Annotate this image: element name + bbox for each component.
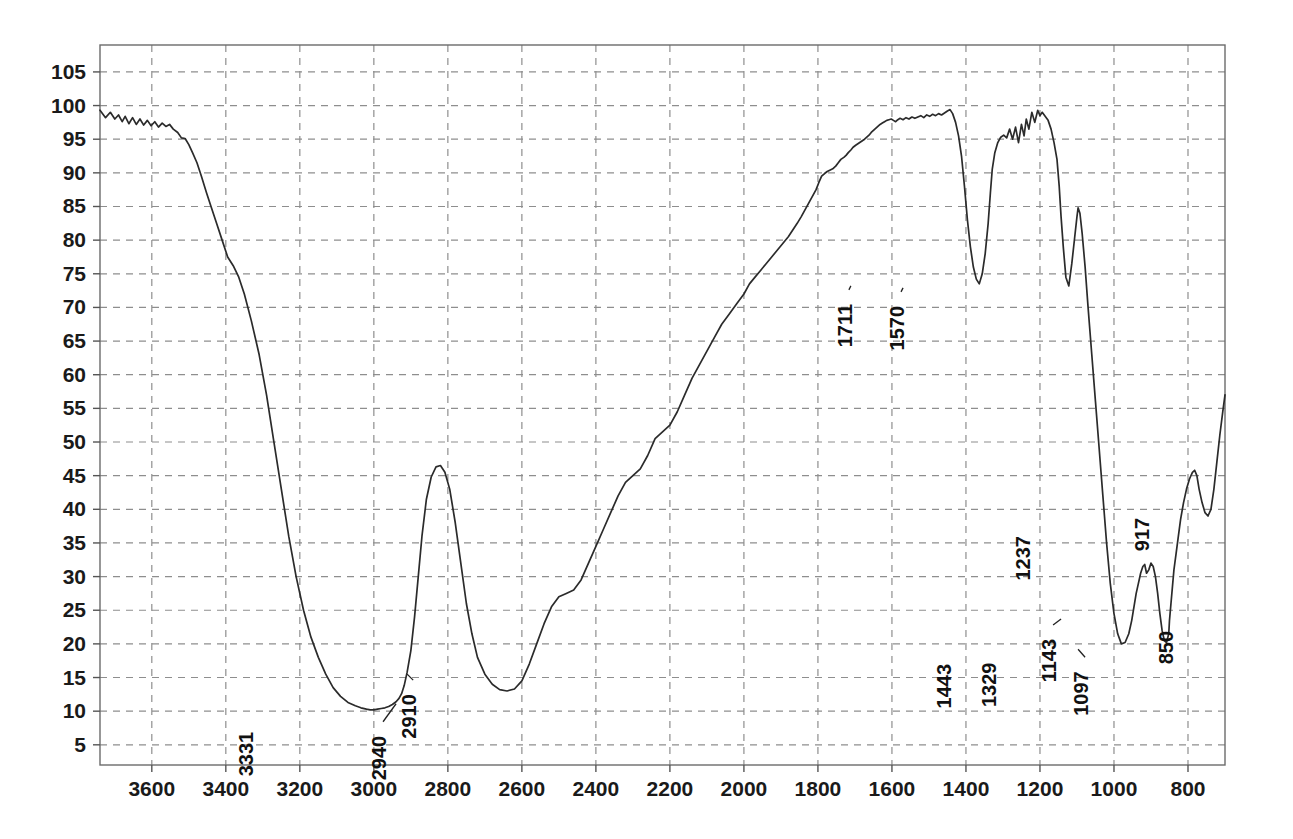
peak-label-1097: 1097	[1070, 671, 1092, 716]
y-tick-label: 55	[63, 396, 87, 419]
x-tick-label: 3400	[202, 777, 249, 800]
y-tick-label: 15	[63, 666, 87, 689]
y-tick-label: 40	[63, 497, 86, 520]
x-tick-label: 800	[1170, 777, 1205, 800]
peak-label-850: 850	[1155, 631, 1177, 664]
figure-background	[0, 0, 1293, 839]
x-tick-label: 2800	[425, 777, 472, 800]
peak-label-1711: 1711	[834, 304, 856, 347]
x-tick-label: 1200	[1017, 777, 1064, 800]
y-tick-label: 5	[74, 733, 86, 756]
y-tick-label: 65	[63, 329, 87, 352]
x-tick-label: 1800	[795, 777, 842, 800]
y-tick-label: 35	[63, 531, 87, 554]
peak-label-1443: 1443	[933, 664, 955, 709]
spectrum-plot: 1051009590858075706560555045403530252015…	[0, 0, 1293, 839]
x-tick-label: 3600	[128, 777, 175, 800]
y-tick-label: 85	[63, 194, 87, 217]
y-tick-label: 60	[63, 363, 86, 386]
y-tick-label: 70	[63, 295, 86, 318]
peak-label-3331: 3331	[235, 732, 257, 777]
peak-label-2910: 2910	[398, 694, 420, 739]
x-tick-label: 1000	[1091, 777, 1138, 800]
y-tick-label: 20	[63, 632, 86, 655]
y-tick-label: 50	[63, 430, 86, 453]
x-tick-label: 1400	[943, 777, 990, 800]
peak-label-1237: 1237	[1012, 536, 1034, 581]
peak-label-1143: 1143	[1038, 639, 1060, 682]
y-tick-label: 45	[63, 464, 87, 487]
y-tick-label: 75	[63, 262, 87, 285]
peak-label-1570: 1570	[886, 306, 908, 351]
peak-label-1329: 1329	[978, 663, 1000, 708]
y-tick-label: 10	[63, 699, 86, 722]
y-tick-label: 25	[63, 598, 87, 621]
peak-label-917: 917	[1131, 518, 1153, 551]
y-tick-label: 105	[51, 60, 86, 83]
y-tick-label: 90	[63, 161, 86, 184]
x-tick-label: 3200	[276, 777, 323, 800]
y-tick-label: 80	[63, 228, 86, 251]
x-tick-label: 1600	[869, 777, 916, 800]
y-tick-label: 30	[63, 565, 86, 588]
x-tick-label: 2000	[721, 777, 768, 800]
peak-label-2940: 2940	[368, 736, 390, 781]
y-tick-label: 100	[51, 94, 86, 117]
x-tick-label: 2600	[499, 777, 546, 800]
x-tick-label: 2400	[573, 777, 620, 800]
x-tick-label: 2200	[647, 777, 694, 800]
ir-spectrum-figure: 1051009590858075706560555045403530252015…	[0, 0, 1293, 839]
y-tick-label: 95	[63, 127, 87, 150]
